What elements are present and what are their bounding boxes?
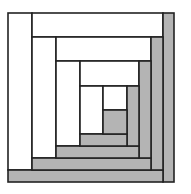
quilt-piece-round4-left [80,86,103,134]
quilt-piece-round3-left [56,61,80,146]
quilt-piece-round4-bottom [80,134,127,146]
quilt-piece-round4-right [127,86,139,146]
quilt-piece-round2-top [56,37,151,61]
quilt-piece-round4-top [103,86,127,110]
quilt-piece-round1-bottom [8,170,163,182]
quilt-piece-round2-right [151,37,163,170]
quilt-piece-round3-bottom [56,146,139,158]
quilt-piece-round2-bottom [32,158,151,170]
quilt-piece-round1-right [163,13,174,182]
log-cabin-quilt-block [0,0,191,194]
quilt-piece-round3-top [80,61,139,86]
quilt-piece-center [103,110,127,134]
quilt-piece-round1-top [32,13,163,37]
quilt-piece-round2-left [32,37,56,158]
quilt-piece-round1-left [8,13,32,170]
quilt-piece-round3-right [139,61,151,158]
